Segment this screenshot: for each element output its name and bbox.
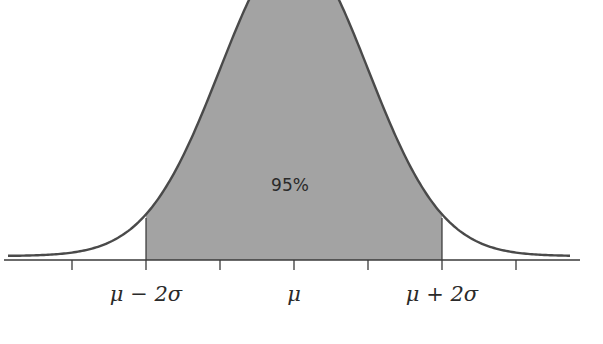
shaded-area-95	[146, 0, 442, 260]
normal-distribution-chart: 95% μ − 2σ μ μ + 2σ	[0, 0, 603, 344]
tick-label-mu-plus-2sigma: μ + 2σ	[406, 282, 479, 306]
percent-label: 95%	[271, 175, 309, 195]
tick-label-mu: μ	[287, 282, 301, 306]
x-axis-ticks	[72, 260, 516, 270]
tick-label-mu-minus-2sigma: μ − 2σ	[110, 282, 183, 306]
